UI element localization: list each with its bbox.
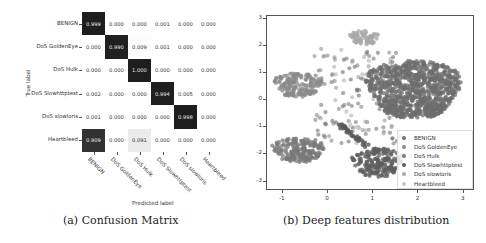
y-axis-title: True label xyxy=(25,69,31,96)
legend-marker-icon xyxy=(402,163,406,167)
scatter-x-tick-label: 3 xyxy=(456,195,470,201)
legend-marker-icon xyxy=(402,172,406,176)
legend-item: DoS slowloris xyxy=(402,170,451,179)
scatter-x-tick-label: 0 xyxy=(320,195,334,201)
scatter-y-tick-mark xyxy=(263,45,266,46)
matrix-cell: 0.091 xyxy=(128,129,151,152)
scatter-y-tick-mark xyxy=(263,126,266,127)
matrix-cell: 0.000 xyxy=(197,129,220,152)
x-tick-label: BENIGN xyxy=(86,156,105,175)
scatter-x-tick-mark xyxy=(372,190,373,193)
legend-label: DoS Hulk xyxy=(414,153,440,159)
y-tick-label: DoS Hulk xyxy=(53,66,78,72)
matrix-cell: 0.000 xyxy=(105,129,128,152)
y-tick-label: Heartbleed xyxy=(48,136,78,142)
x-tick-mark xyxy=(94,152,95,155)
matrix-cell: 0.998 xyxy=(174,105,197,128)
scatter-y-tick-mark xyxy=(263,99,266,100)
matrix-cell: 0.000 xyxy=(151,129,174,152)
matrix-cell: 0.000 xyxy=(128,12,151,35)
scatter-y-tick-label: -3 xyxy=(250,177,262,183)
scatter-y-tick-label: 2 xyxy=(250,41,262,47)
matrix-cell: 0.000 xyxy=(174,129,197,152)
legend-marker-icon xyxy=(402,154,406,158)
scatter-legend: BENIGNDoS GoldenEyeDoS HulkDoS Slowhttpt… xyxy=(397,130,473,189)
matrix-cell: 0.000 xyxy=(105,82,128,105)
matrix-cell: 0.000 xyxy=(197,35,220,58)
confusion-matrix-grid: 0.9990.0000.0000.0010.0000.0000.0000.990… xyxy=(82,12,220,152)
matrix-cell: 0.990 xyxy=(105,35,128,58)
matrix-cell: 0.994 xyxy=(151,82,174,105)
scatter-y-tick-mark xyxy=(263,72,266,73)
x-tick-mark xyxy=(163,152,164,155)
matrix-cell: 0.000 xyxy=(82,59,105,82)
legend-item: DoS Hulk xyxy=(402,151,440,160)
x-tick-mark xyxy=(209,152,210,155)
legend-label: Heartbleed xyxy=(414,181,445,187)
caption-b: (b) Deep features distribution xyxy=(283,214,449,227)
x-tick-mark xyxy=(140,152,141,155)
legend-marker-icon xyxy=(402,145,406,149)
legend-item: DoS Slowhttptest xyxy=(402,161,462,170)
legend-marker-icon xyxy=(402,182,406,186)
scatter-y-tick-mark xyxy=(263,18,266,19)
matrix-cell: 0.002 xyxy=(82,82,105,105)
matrix-cell: 0.999 xyxy=(82,12,105,35)
caption-a: (a) Confusion Matrix xyxy=(63,214,179,227)
scatter-y-tick-label: 1 xyxy=(250,68,262,74)
matrix-cell: 0.009 xyxy=(128,35,151,58)
matrix-cell: 0.001 xyxy=(82,105,105,128)
scatter-x-tick-mark xyxy=(327,190,328,193)
matrix-cell: 0.000 xyxy=(105,105,128,128)
matrix-cell: 0.000 xyxy=(151,105,174,128)
matrix-cell: 0.000 xyxy=(128,82,151,105)
scatter-x-tick-label: 1 xyxy=(365,195,379,201)
matrix-cell: 0.909 xyxy=(82,129,105,152)
scatter-y-tick-label: 0 xyxy=(250,95,262,101)
matrix-cell: 1.000 xyxy=(128,59,151,82)
matrix-cell: 0.000 xyxy=(197,82,220,105)
matrix-cell: 0.000 xyxy=(151,59,174,82)
scatter-y-tick-mark xyxy=(263,153,266,154)
legend-item: Heartbleed xyxy=(402,179,445,188)
matrix-cell: 0.000 xyxy=(197,59,220,82)
matrix-cell: 0.000 xyxy=(128,105,151,128)
scatter-x-tick-label: 2 xyxy=(410,195,424,201)
scatter-y-tick-label: -1 xyxy=(250,122,262,128)
legend-item: BENIGN xyxy=(402,133,436,142)
matrix-cell: 0.000 xyxy=(197,105,220,128)
scatter-x-tick-mark xyxy=(417,190,418,193)
legend-item: DoS GoldenEye xyxy=(402,142,457,151)
matrix-cell: 0.000 xyxy=(174,59,197,82)
legend-label: BENIGN xyxy=(414,135,436,141)
x-tick-label: DoS Hulk xyxy=(132,156,154,178)
y-tick-label: BENIGN xyxy=(57,20,78,26)
matrix-cell: 0.000 xyxy=(174,12,197,35)
y-tick-label: DoS slowloris xyxy=(42,113,78,119)
matrix-cell: 0.005 xyxy=(174,82,197,105)
y-tick-label: DoS GoldenEye xyxy=(36,43,78,49)
scatter-x-tick-label: -1 xyxy=(275,195,289,201)
legend-label: DoS slowloris xyxy=(414,171,451,177)
matrix-cell: 0.000 xyxy=(197,12,220,35)
scatter-y-tick-label: 3 xyxy=(250,14,262,20)
matrix-cell: 0.000 xyxy=(82,35,105,58)
x-tick-mark xyxy=(186,152,187,155)
matrix-cell: 0.001 xyxy=(151,35,174,58)
scatter-y-tick-label: -2 xyxy=(250,149,262,155)
x-axis-title: Predicted label xyxy=(132,200,174,206)
y-tick-label: DoS Slowhttptest xyxy=(31,90,78,96)
x-tick-mark xyxy=(117,152,118,155)
matrix-cell: 0.000 xyxy=(174,35,197,58)
legend-label: DoS GoldenEye xyxy=(414,144,457,150)
scatter-x-tick-mark xyxy=(282,190,283,193)
scatter-y-tick-mark xyxy=(263,181,266,182)
matrix-cell: 0.001 xyxy=(151,12,174,35)
matrix-cell: 0.000 xyxy=(105,12,128,35)
scatter-x-tick-mark xyxy=(463,190,464,193)
legend-marker-icon xyxy=(402,136,406,140)
matrix-cell: 0.000 xyxy=(105,59,128,82)
legend-label: DoS Slowhttptest xyxy=(414,162,462,168)
